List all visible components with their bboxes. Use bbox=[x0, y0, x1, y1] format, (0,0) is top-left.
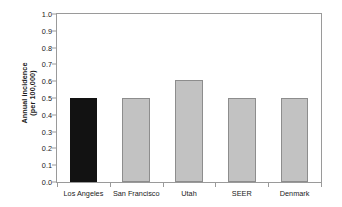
bar-denmark[interactable] bbox=[281, 98, 308, 182]
bar-slot bbox=[57, 14, 110, 182]
x-axis-tick-mark bbox=[321, 183, 322, 187]
y-axis-tick-mark bbox=[52, 114, 56, 115]
x-axis-category-label: SEER bbox=[215, 189, 268, 198]
x-axis-category-label: Denmark bbox=[268, 189, 321, 198]
y-axis-tick-label: 0.4 bbox=[26, 110, 52, 119]
x-axis-tick-mark bbox=[57, 183, 58, 187]
y-axis-tick-label: 0.0 bbox=[26, 178, 52, 187]
bar-seer[interactable] bbox=[228, 98, 255, 182]
bars-container bbox=[57, 14, 321, 182]
y-axis-tick-mark bbox=[52, 131, 56, 132]
bar-utah[interactable] bbox=[175, 80, 202, 182]
bar-slot bbox=[215, 14, 268, 182]
y-axis-tick-mark bbox=[52, 98, 56, 99]
y-axis-tick-mark bbox=[52, 81, 56, 82]
x-axis-tick-mark bbox=[110, 183, 111, 187]
y-axis-tick-mark bbox=[52, 47, 56, 48]
y-axis-tick-label: 1.0 bbox=[26, 10, 52, 19]
y-axis-tick-mark bbox=[52, 165, 56, 166]
bar-slot bbox=[268, 14, 321, 182]
bar-slot bbox=[163, 14, 216, 182]
y-axis-tick-label: 0.3 bbox=[26, 127, 52, 136]
bar-san-francisco[interactable] bbox=[122, 98, 149, 182]
x-axis-category-label: San Francisco bbox=[110, 189, 163, 198]
bar-chart-figure: Annual incidence (per 100,000) Los Angel… bbox=[0, 0, 342, 207]
y-axis-tick-mark bbox=[52, 64, 56, 65]
y-axis-tick-label: 0.5 bbox=[26, 94, 52, 103]
x-axis-category-label: Utah bbox=[163, 189, 216, 198]
x-axis-tick-mark bbox=[268, 183, 269, 187]
x-axis-tick-mark bbox=[163, 183, 164, 187]
y-axis-tick-label: 0.2 bbox=[26, 144, 52, 153]
bar-los-angeles[interactable] bbox=[70, 98, 97, 182]
y-axis-tick-label: 0.6 bbox=[26, 77, 52, 86]
y-axis-tick-mark bbox=[52, 148, 56, 149]
y-axis-tick-label: 0.8 bbox=[26, 43, 52, 52]
y-axis-tick-label: 0.9 bbox=[26, 26, 52, 35]
x-axis-tick-mark bbox=[215, 183, 216, 187]
y-axis-tick-mark bbox=[52, 14, 56, 15]
x-axis-category-labels: Los AngelesSan FranciscoUtahSEERDenmark bbox=[57, 189, 321, 198]
y-axis-tick-mark bbox=[52, 182, 56, 183]
y-axis-tick-label: 0.7 bbox=[26, 60, 52, 69]
y-axis-tick-label: 0.1 bbox=[26, 161, 52, 170]
x-axis-category-label: Los Angeles bbox=[57, 189, 110, 198]
bar-slot bbox=[110, 14, 163, 182]
y-axis-tick-mark bbox=[52, 30, 56, 31]
